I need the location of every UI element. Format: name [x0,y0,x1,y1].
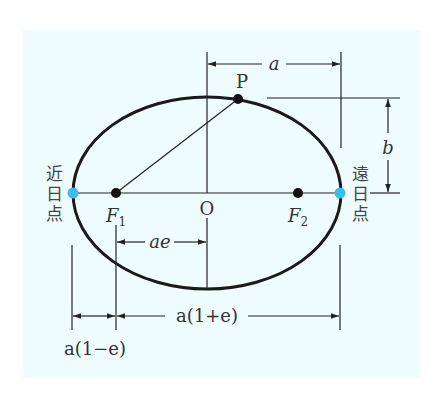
svg-text:日: 日 [46,184,63,204]
perihelion-point [68,188,79,199]
focus-f2 [293,188,303,198]
point-p [233,94,243,104]
aphelion-label: 遠 日 点 [352,164,369,224]
svg-text:日: 日 [352,184,369,204]
perihelion-label: 近 日 点 [46,164,63,224]
svg-text:点: 点 [352,204,369,224]
semi-major-label: a [269,53,280,74]
perihelion-distance-label: a(1−e) [64,338,126,359]
focus1-label: F1 [105,205,126,229]
svg-text:近: 近 [46,164,63,184]
focus2-label: F2 [287,205,308,229]
point-p-label: P [236,71,248,92]
ellipse-orbit-diagram: a b ae a(1+e) a(1−e) P O F1 F2 近 日 点 遠 日… [0,0,446,395]
focal-distance-label: ae [149,231,170,252]
svg-text:遠: 遠 [352,164,369,184]
center-o-label: O [200,198,215,219]
aphelion-point [335,188,346,199]
svg-text:点: 点 [46,204,63,224]
aphelion-distance-label: a(1+e) [176,305,238,326]
focus-f1 [111,188,121,198]
semi-minor-label: b [382,137,394,158]
